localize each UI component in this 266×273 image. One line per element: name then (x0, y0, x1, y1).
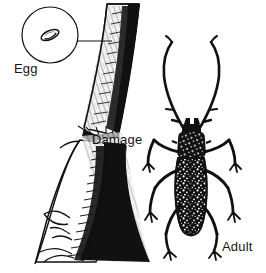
beetle-antennae (164, 36, 219, 131)
label-adult: Adult (222, 240, 253, 253)
label-egg: Egg (14, 62, 38, 75)
twig-lower-segment (35, 128, 160, 268)
label-damage: Damage (92, 133, 142, 146)
illustration-figure: Egg Damage Adult (0, 0, 266, 273)
twig-upper-segment (78, 0, 148, 140)
beetle-elytra (175, 158, 206, 236)
beetle-thorax (172, 131, 211, 160)
adult-beetle-group (143, 36, 241, 260)
